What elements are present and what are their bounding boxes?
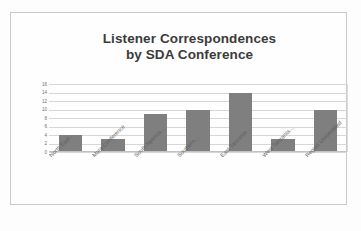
y-tick-label: 12 xyxy=(29,99,47,104)
figure-caption xyxy=(4,223,204,231)
y-tick-label: 14 xyxy=(29,90,47,95)
chart-title-line-1: Listener Correspondences xyxy=(103,31,276,46)
y-tick-label: 2 xyxy=(29,141,47,146)
x-axis-category-labels: North East…Mara ConferenceSouth Nyanza…S… xyxy=(49,154,347,214)
chart-title-line-2: by SDA Conference xyxy=(21,47,358,63)
y-tick-label: 16 xyxy=(29,82,47,87)
y-tick-label: 10 xyxy=(29,107,47,112)
plot-area xyxy=(49,84,347,152)
y-tick-label: 8 xyxy=(29,116,47,121)
y-tick-label: 0 xyxy=(29,150,47,155)
bar-series xyxy=(49,84,347,152)
chart-frame: Listener Correspondences by SDA Conferen… xyxy=(10,12,347,205)
y-tick-label: 6 xyxy=(29,124,47,129)
y-axis-tick-labels: 1614121086420 xyxy=(29,79,47,157)
plot-right-edge xyxy=(347,84,348,152)
y-tick-label: 4 xyxy=(29,133,47,138)
chart-page: Listener Correspondences by SDA Conferen… xyxy=(0,0,361,231)
chart-title: Listener Correspondences by SDA Conferen… xyxy=(21,31,358,62)
